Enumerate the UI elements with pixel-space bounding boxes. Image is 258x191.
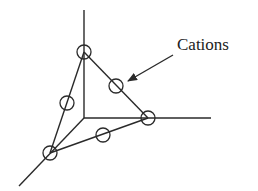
edge-top-vertex-to-right-vertex <box>84 52 148 118</box>
pointer-arrow <box>128 55 173 81</box>
edge-bottom-left-vertex-to-top-vertex <box>50 52 84 153</box>
cation-bottom-edge-circle <box>96 128 110 142</box>
arrow-line <box>128 55 173 81</box>
diagram-canvas <box>0 0 258 191</box>
edge-right-vertex-to-bottom-left-vertex <box>50 118 148 153</box>
cations-label: Cations <box>177 35 229 55</box>
